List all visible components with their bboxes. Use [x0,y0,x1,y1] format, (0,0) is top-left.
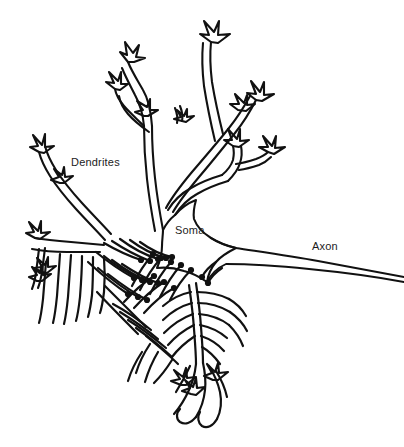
label-soma: Soma [175,224,205,237]
caption-strip [0,440,404,447]
label-dendrites: Dendrites [71,156,120,169]
label-axon: Axon [312,240,338,253]
figure-canvas: Dendrites Soma Axon [0,0,404,447]
